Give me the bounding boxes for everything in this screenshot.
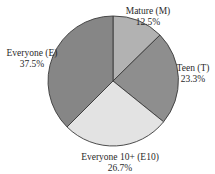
label-mature-name: Mature (M) xyxy=(126,6,171,17)
pie-slices xyxy=(48,16,178,146)
label-e10-name: Everyone 10+ (E10) xyxy=(81,152,159,163)
label-e10-pct: 26.7% xyxy=(108,163,133,173)
label-everyone-name: Everyone (E) xyxy=(7,48,58,59)
label-teen-name: Teen (T) xyxy=(177,63,210,74)
label-mature-pct: 12.5% xyxy=(136,17,161,27)
pie-chart: Mature (M) 12.5% Teen (T) 23.3% Everyone… xyxy=(0,0,215,174)
label-teen-pct: 23.3% xyxy=(181,74,206,84)
label-everyone-pct: 37.5% xyxy=(20,59,45,69)
